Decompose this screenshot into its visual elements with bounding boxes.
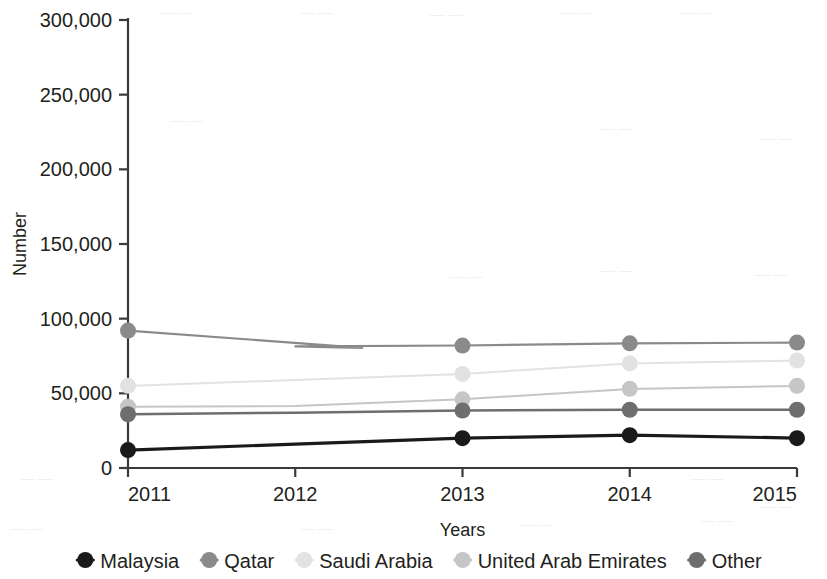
data-point	[120, 406, 136, 422]
data-point	[120, 442, 136, 458]
data-point	[622, 381, 638, 397]
x-axis-tick-label: 2011	[128, 483, 171, 505]
legend-marker	[455, 552, 471, 568]
legend-marker	[689, 552, 705, 568]
legend-item-united-arab-emirates[interactable]: United Arab Emirates	[455, 550, 667, 572]
legend-marker	[201, 552, 217, 568]
legend-label: United Arab Emirates	[478, 550, 667, 572]
data-point	[622, 335, 638, 351]
data-point	[789, 378, 805, 394]
legend-label: Qatar	[224, 550, 274, 572]
y-axis-tick-label: 100,000	[40, 308, 112, 330]
data-point	[622, 402, 638, 418]
y-axis-tick-label: 50,000	[51, 382, 112, 404]
data-point	[455, 338, 471, 354]
data-point	[455, 403, 471, 419]
legend-marker	[77, 552, 93, 568]
data-point	[622, 427, 638, 443]
y-axis-title: Number	[10, 212, 30, 276]
data-point	[120, 378, 136, 394]
legend-label: Other	[712, 550, 762, 572]
y-axis-tick-label: 150,000	[40, 233, 112, 255]
legend-label: Malaysia	[100, 550, 180, 572]
data-point	[622, 355, 638, 371]
data-point	[120, 323, 136, 339]
y-axis-tick-label: 250,000	[40, 84, 112, 106]
x-axis-tick-label: 2014	[608, 483, 653, 505]
data-point	[789, 430, 805, 446]
legend-label: Saudi Arabia	[319, 550, 433, 572]
data-point	[455, 430, 471, 446]
data-point	[789, 402, 805, 418]
x-axis-tick-label: 2015	[753, 483, 798, 505]
x-axis-tick-label: 2013	[440, 483, 485, 505]
data-point	[455, 366, 471, 382]
y-axis-tick-label: 300,000	[40, 9, 112, 31]
line-chart: 050,000100,000150,000200,000250,000300,0…	[0, 0, 827, 579]
y-axis-tick-label: 0	[101, 457, 112, 479]
data-point	[789, 352, 805, 368]
legend-marker	[296, 552, 312, 568]
x-axis-tick-label: 2012	[273, 483, 318, 505]
chart-canvas: 050,000100,000150,000200,000250,000300,0…	[0, 0, 827, 579]
y-axis-tick-label: 200,000	[40, 158, 112, 180]
chart-background	[0, 0, 827, 579]
data-point	[789, 335, 805, 351]
x-axis-title: Years	[440, 520, 485, 540]
